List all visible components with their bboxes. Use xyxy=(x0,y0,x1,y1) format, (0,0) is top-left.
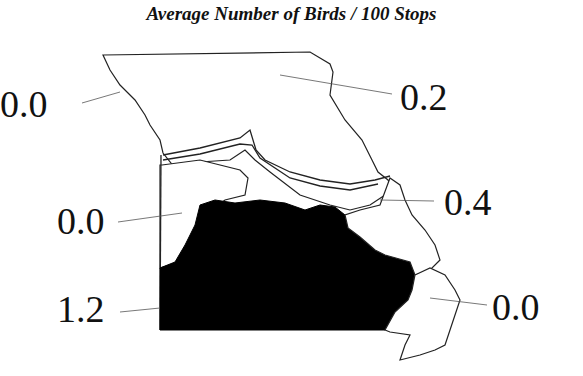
value-label-ozarks: 1.2 xyxy=(57,290,105,328)
value-label-north: 0.2 xyxy=(400,78,448,116)
value-label-southeast: 0.0 xyxy=(492,288,540,326)
value-label-northwest: 0.0 xyxy=(0,85,48,123)
value-label-west-central: 0.0 xyxy=(57,202,105,240)
value-label-east-central: 0.4 xyxy=(444,183,492,221)
